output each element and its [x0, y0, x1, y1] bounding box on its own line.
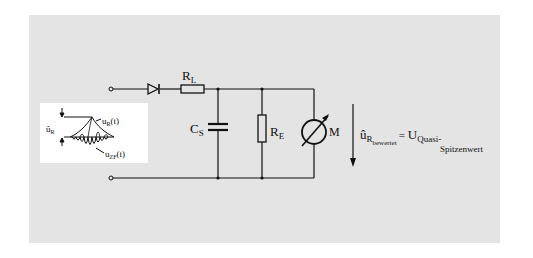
output-formula: ûRbewertet=UQuasi-: [360, 127, 441, 147]
input-terminal-top: [109, 87, 113, 91]
label-envelope: uR(t): [102, 116, 119, 127]
junction-dot: [260, 176, 263, 179]
input-terminal-bottom: [109, 176, 113, 180]
label-cs: CS: [190, 121, 204, 138]
label-rl: RL: [182, 68, 196, 85]
waveform-inset: [40, 103, 148, 163]
meter-symbol: [302, 114, 329, 146]
output-formula-line2: Spitzenwert: [440, 144, 483, 154]
junction-dot: [216, 176, 219, 179]
junction-dot: [216, 87, 219, 90]
output-voltage-arrow: [350, 104, 356, 167]
circuit-diagram: RL CS RE M ûR uR(t) uZF(t) ûRbewertet=UQ…: [0, 0, 533, 258]
label-re: RE: [270, 124, 285, 141]
resistor-rl-symbol: [181, 85, 204, 93]
resistor-re-symbol: [258, 115, 266, 142]
capacitor-cs-symbol: [208, 124, 228, 130]
junction-dot: [260, 87, 263, 90]
label-meter: M: [329, 125, 340, 139]
diode-symbol: [148, 84, 159, 94]
